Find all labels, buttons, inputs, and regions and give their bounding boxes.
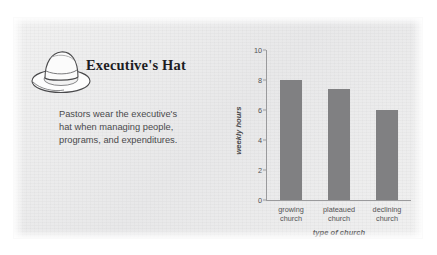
y-tick-mark — [263, 50, 266, 51]
description-line-1: Pastors wear the executive's — [59, 108, 229, 121]
y-tick-mark — [263, 80, 266, 81]
y-tick-mark — [263, 140, 266, 141]
description-text: Pastors wear the executive's hat when ma… — [59, 108, 229, 148]
weekly-hours-bar-chart: weekly hours 0246810 growingchurchplatea… — [226, 30, 416, 238]
y-tick-label: 0 — [240, 196, 262, 205]
page-title: Executive's Hat — [86, 57, 186, 74]
y-tick-label: 10 — [240, 46, 262, 55]
x-tick-label: decliningchurch — [361, 205, 413, 223]
x-tick-label: growingchurch — [265, 205, 317, 223]
x-tick-label: plateauedchurch — [313, 205, 365, 223]
x-tick-label-line: growing — [278, 205, 304, 214]
description-line-2: hat when managing people, — [59, 121, 229, 134]
bar — [328, 89, 350, 200]
bar — [376, 110, 398, 200]
y-tick-label: 4 — [240, 136, 262, 145]
y-tick-label: 6 — [240, 106, 262, 115]
y-tick-label: 8 — [240, 76, 262, 85]
y-tick-mark — [263, 200, 266, 201]
x-axis-title: type of church — [266, 228, 412, 237]
x-tick-label-line: church — [313, 214, 365, 223]
x-tick-label-line: church — [265, 214, 317, 223]
bar — [280, 80, 302, 200]
plot-area — [267, 50, 411, 200]
x-axis-line — [266, 200, 411, 201]
x-tick-label-line: church — [361, 214, 413, 223]
y-tick-mark — [263, 110, 266, 111]
y-tick-mark — [263, 170, 266, 171]
y-tick-label: 2 — [240, 166, 262, 175]
x-tick-label-line: plateaued — [323, 205, 355, 214]
page-root: Executive's Hat Pastors wear the executi… — [0, 0, 437, 255]
description-line-3: programs, and expenditures. — [59, 134, 229, 147]
hat-icon — [30, 44, 92, 96]
x-tick-label-line: declining — [373, 205, 402, 214]
executives-hat-card: Executive's Hat Pastors wear the executi… — [14, 18, 422, 238]
